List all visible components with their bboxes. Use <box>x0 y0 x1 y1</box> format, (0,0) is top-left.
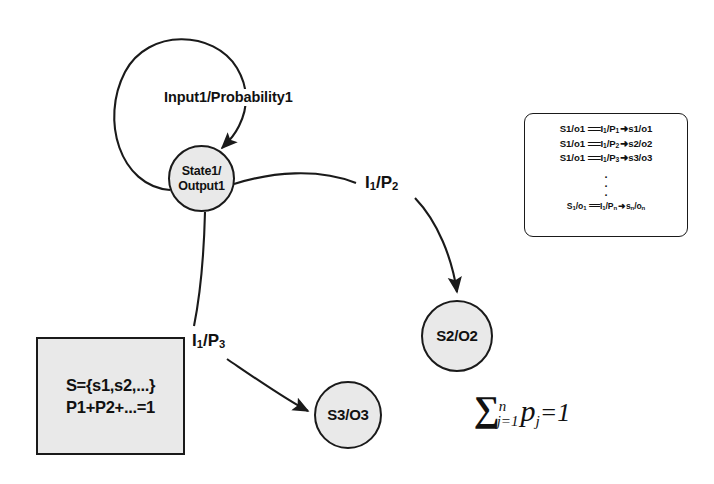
legend-last-target-rest: /o <box>634 201 641 211</box>
legend-row-2-slash: /P <box>607 152 616 163</box>
summation-limits: nj=1 <box>497 399 519 430</box>
state-node-state1[interactable]: State1/ Output1 <box>168 145 235 212</box>
edge-label-p2-prob-sub: 2 <box>392 180 398 192</box>
legend-last-equals: === <box>589 201 599 211</box>
legend-row-0-equals: === <box>587 123 599 134</box>
legend-vertical-ellipsis: . . . <box>525 166 687 200</box>
legend-last-target-rest-sub: n <box>642 205 646 211</box>
legend-row-0-slash: /P <box>607 123 616 134</box>
edge-label-state1-to-state3: I1/P3 <box>189 330 228 353</box>
legend-row-2-target: s3/o3 <box>628 152 652 163</box>
edge-label-p3-prob-sub: 3 <box>219 338 225 350</box>
set-definition-box: S={s1,s2,...} P1+P2+...=1 <box>36 337 185 455</box>
summation-term: pj <box>520 394 539 427</box>
legend-row: S1/o1 ===I1/P3➜s3/o3 <box>525 151 687 166</box>
legend-row-0-source: S1/o1 <box>560 123 585 134</box>
edge-label-state1-to-state2: I1/P2 <box>362 172 401 195</box>
state1-label-line1: State1/ <box>182 164 222 178</box>
set-definition-line-states: S={s1,s2,...} <box>66 374 155 396</box>
state1-label-line2: Output1 <box>178 179 225 193</box>
state-node-state2-label: S2/O2 <box>436 327 478 345</box>
edge-label-p2-sep: /P <box>376 173 392 192</box>
summation-lower-limit: j=1 <box>497 414 519 429</box>
edge-state1-to-state2-path <box>234 173 356 184</box>
legend-row-1-source: S1/o1 <box>560 138 585 149</box>
legend-last-prob-sub: n <box>613 205 617 211</box>
edge-label-p3-sep: /P <box>203 331 219 350</box>
state-node-state2[interactable]: S2/O2 <box>421 300 493 372</box>
edge-state1-to-state3-path <box>194 212 205 326</box>
legend-row: S1/o1 ===I1/P1➜s1/o1 <box>525 122 687 137</box>
legend-row: S1/o1 ===I1/P2➜s2/o2 <box>525 137 687 152</box>
set-definition-line-probabilities: P1+P2+...=1 <box>66 396 155 418</box>
arrow-right-icon: ➜ <box>620 123 628 134</box>
edge-state1-to-state2-path-tail <box>415 198 457 292</box>
arrow-right-icon: ➜ <box>618 201 626 211</box>
edge-label-self-loop-text: Input1/Probability1 <box>164 89 293 105</box>
edge-state1-to-state3-path-tail <box>227 359 308 411</box>
legend-row-last: S1/o1 ===I1/Pn➜sn/on <box>525 200 687 213</box>
transition-legend-box: S1/o1 ===I1/P1➜s1/o1 S1/o1 ===I1/P2➜s2/o… <box>524 113 688 237</box>
legend-last-source-rest-sub: 1 <box>583 205 586 211</box>
edge-label-self-loop: Input1/Probability1 <box>162 89 295 106</box>
arrow-right-icon: ➜ <box>620 138 628 149</box>
legend-row-0-prob-sub: 1 <box>616 127 620 134</box>
summation-upper-limit: n <box>499 399 519 414</box>
arrow-right-icon: ➜ <box>620 152 628 163</box>
summation-result: =1 <box>540 398 571 427</box>
state-node-state3[interactable]: S3/O3 <box>314 381 382 449</box>
legend-row-1-slash: /P <box>607 138 616 149</box>
summation-term-symbol: p <box>520 394 535 427</box>
summation-formula: ∑nj=1pj=1 <box>474 388 570 430</box>
legend-row-2-equals: === <box>587 152 599 163</box>
legend-ellipsis-dot: . <box>525 187 687 196</box>
legend-row-2-source: S1/o1 <box>560 152 585 163</box>
diagram-canvas: State1/ Output1 S2/O2 S3/O3 Input1/Proba… <box>0 0 714 484</box>
legend-row-0-target: s1/o1 <box>628 123 652 134</box>
legend-row-1-target: s2/o2 <box>628 138 652 149</box>
legend-row-2-prob-sub: 3 <box>616 157 620 164</box>
legend-row-1-equals: === <box>587 138 599 149</box>
legend-row-1-prob-sub: 2 <box>616 142 620 149</box>
state-node-state1-label: State1/ Output1 <box>178 164 225 194</box>
state-node-state3-label: S3/O3 <box>327 406 369 424</box>
